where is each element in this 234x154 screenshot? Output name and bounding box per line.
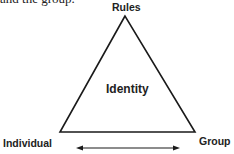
center-label-identity: Identity xyxy=(106,82,149,96)
vertex-label-group: Group xyxy=(199,135,231,147)
double-arrow-icon xyxy=(76,146,180,151)
triangle-diagram xyxy=(0,0,234,154)
vertex-label-rules: Rules xyxy=(112,1,141,13)
vertex-label-individual: Individual xyxy=(3,137,52,149)
triangle-shape xyxy=(60,16,195,132)
